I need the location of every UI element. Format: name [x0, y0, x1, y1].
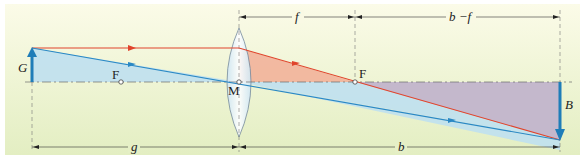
image-distance-label: b — [398, 139, 405, 154]
object-distance-label: g — [131, 139, 138, 154]
lens-diagram: G B M F F f b −f g b — [0, 0, 584, 159]
focal-point-left — [119, 80, 123, 84]
image-label: B — [565, 97, 573, 112]
object-label: G — [18, 60, 28, 75]
focal-right-label: F — [359, 66, 366, 81]
focal-left-label: F — [112, 67, 119, 82]
image-minus-f-label: b −f — [449, 9, 474, 24]
diagram-canvas: G B M F F f b −f g b — [0, 0, 584, 159]
focal-point-right — [353, 80, 357, 84]
center-label: M — [228, 83, 240, 98]
